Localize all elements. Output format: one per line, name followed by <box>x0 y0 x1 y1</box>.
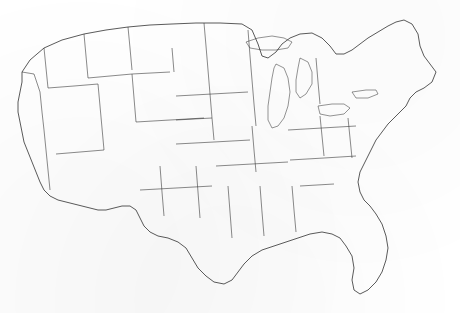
state-boundary-14 <box>176 92 248 96</box>
great-lake-5 <box>352 90 378 98</box>
national-boundary <box>18 20 436 294</box>
state-boundary-13 <box>210 94 214 140</box>
state-boundary-20 <box>252 126 256 172</box>
state-boundary-4 <box>98 84 104 150</box>
state-boundary-21 <box>288 126 356 130</box>
state-boundary-32 <box>140 186 212 190</box>
state-boundary-17 <box>248 30 252 80</box>
state-boundary-29 <box>228 186 232 238</box>
figure-root: Black and white map of the contiguous Un… <box>0 0 460 313</box>
state-boundary-8 <box>88 72 170 78</box>
great-lakes-layer <box>246 36 378 128</box>
state-boundary-18 <box>252 80 256 126</box>
state-boundary-3 <box>48 84 98 88</box>
state-boundary-19 <box>216 162 288 166</box>
state-boundary-27 <box>292 186 296 232</box>
great-lake-4 <box>318 104 350 116</box>
state-boundary-12 <box>204 23 210 94</box>
state-boundary-5 <box>56 150 104 154</box>
state-boundary-2 <box>44 48 48 88</box>
national-boundary-layer <box>18 20 436 294</box>
us-county-choropleth-map <box>0 0 460 313</box>
state-boundary-31 <box>160 166 164 216</box>
state-boundary-26 <box>348 118 352 158</box>
state-boundary-6 <box>84 34 88 78</box>
state-boundary-11 <box>172 48 174 72</box>
state-boundaries-layer <box>22 23 356 238</box>
great-lake-2 <box>246 36 292 50</box>
state-boundary-23 <box>300 184 334 186</box>
state-boundary-7 <box>128 27 132 70</box>
state-boundary-28 <box>260 186 264 236</box>
state-boundary-30 <box>196 166 200 218</box>
state-boundary-9 <box>132 74 136 122</box>
state-boundary-15 <box>176 118 212 120</box>
great-lake-1 <box>268 64 290 128</box>
state-boundary-16 <box>176 140 250 144</box>
state-boundary-25 <box>320 116 324 156</box>
state-boundary-10 <box>136 118 204 122</box>
state-boundary-24 <box>316 58 320 104</box>
great-lake-3 <box>296 58 312 98</box>
state-boundary-22 <box>290 156 356 160</box>
